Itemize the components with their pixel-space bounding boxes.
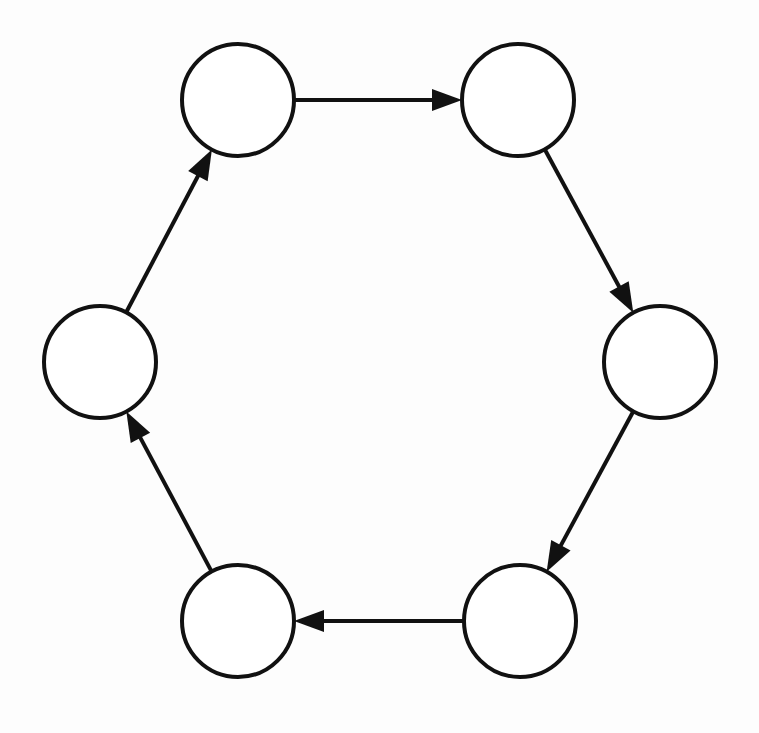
arrowhead-icon <box>188 150 212 182</box>
arrowhead-icon <box>126 411 150 443</box>
node-top-left <box>182 44 294 156</box>
edges-group <box>126 89 633 632</box>
edge-n3-to-n4 <box>556 411 633 554</box>
edge-n2-to-n3 <box>545 149 624 295</box>
edge-n5-to-n6 <box>136 429 212 572</box>
node-left <box>44 306 156 418</box>
arrowhead-icon <box>609 281 633 313</box>
nodes-group <box>44 44 716 677</box>
node-right <box>604 306 716 418</box>
node-top-right <box>462 44 574 156</box>
edge-n6-to-n1 <box>126 167 202 312</box>
arrowhead-icon <box>432 89 462 111</box>
node-bottom-right <box>464 565 576 677</box>
arrowhead-icon <box>547 540 571 572</box>
arrowhead-icon <box>294 610 324 632</box>
cycle-graph <box>0 0 759 733</box>
node-bottom-left <box>182 565 294 677</box>
